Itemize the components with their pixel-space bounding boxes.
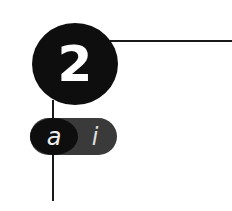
- toggle-option-i: i: [80, 118, 110, 155]
- toggle-label-i: i: [92, 123, 99, 151]
- toggle-label-a: a: [47, 123, 62, 151]
- step-number: 2: [58, 39, 93, 89]
- connector-horizontal-line: [110, 40, 232, 42]
- step-number-badge: 2: [32, 23, 118, 105]
- toggle-option-a: a: [30, 118, 78, 155]
